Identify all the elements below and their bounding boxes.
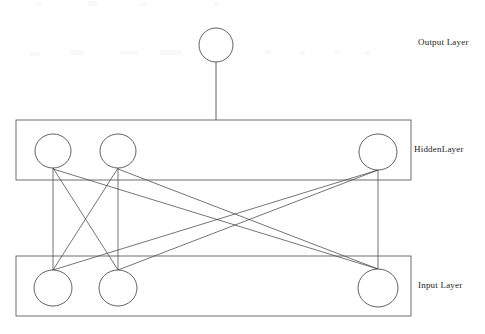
connection-i3-h2 [118, 169, 378, 269]
connection-group-input-to-hidden [53, 168, 378, 270]
network-canvas [0, 0, 485, 334]
input-layer-label: Input Layer [418, 281, 462, 290]
input-node-i1 [34, 270, 72, 306]
output-layer-label: Output Layer [418, 38, 469, 47]
hidden-layer-box [16, 120, 411, 180]
neural-network-diagram: Output Layer HiddenLayer Input Layer [0, 0, 485, 334]
connection-i3-h1 [53, 169, 378, 269]
connection-i2-h3 [118, 170, 378, 270]
input-node-i2 [99, 270, 137, 306]
input-layer-box [16, 256, 411, 316]
connection-i1-h3 [53, 170, 378, 270]
hidden-node-h3 [359, 134, 397, 170]
input-node-i3 [358, 269, 398, 307]
hidden-node-h2 [100, 134, 136, 168]
hidden-node-h1 [35, 134, 71, 168]
output-node-o1 [199, 28, 233, 62]
hidden-layer-label: HiddenLayer [414, 145, 464, 154]
